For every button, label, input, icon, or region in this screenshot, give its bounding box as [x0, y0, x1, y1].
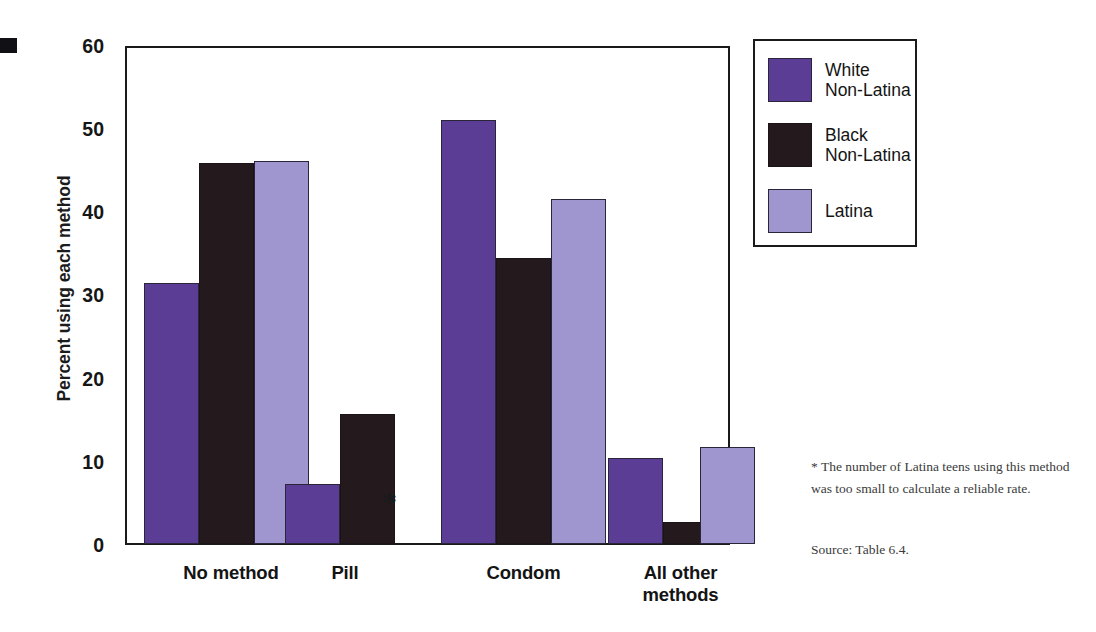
bar-no-method-black-non-latina [199, 163, 254, 544]
y-tick-label-30: 30 [48, 286, 104, 306]
bar-condom-white-non-latina [441, 120, 496, 544]
x-label-pill: Pill [285, 562, 405, 584]
x-label-condom: Condom [441, 562, 606, 584]
legend-item-latina: Latina [768, 189, 873, 233]
legend-label-latina-line1: Latina [825, 201, 873, 221]
y-tick-label-0: 0 [48, 536, 104, 556]
footnote-text: * The number of Latina teens using this … [811, 456, 1073, 500]
latina-swatch-icon [768, 189, 812, 233]
bar-all-other-latina [700, 447, 755, 544]
bar-chart-figure: Percent using each method 60 50 40 30 20… [0, 0, 1096, 632]
y-tick-label-50: 50 [48, 120, 104, 140]
legend-label-white-non-latina: White Non-Latina [825, 60, 911, 101]
legend-label-white-non-latina-line1: White [825, 60, 911, 80]
legend-label-latina: Latina [825, 201, 873, 221]
x-label-all-other-line2: methods [598, 584, 763, 606]
bar-condom-latina [551, 199, 606, 544]
black-non-latina-swatch-icon [768, 123, 812, 167]
x-label-pill-line1: Pill [285, 562, 405, 584]
pill-latina-suppressed-asterisk: * [382, 487, 397, 517]
x-label-all-other-methods: All other methods [598, 562, 763, 605]
white-non-latina-swatch-icon [768, 58, 812, 102]
x-label-condom-line1: Condom [441, 562, 606, 584]
legend-item-black-non-latina: Black Non-Latina [768, 123, 911, 167]
bar-condom-black-non-latina [496, 258, 551, 544]
x-label-all-other-line1: All other [598, 562, 763, 584]
legend-item-white-non-latina: White Non-Latina [768, 58, 911, 102]
source-text: Source: Table 6.4. [811, 540, 1073, 560]
y-tick-label-40: 40 [48, 203, 104, 223]
bar-pill-black-non-latina [340, 414, 395, 544]
legend-label-black-non-latina-line1: Black [825, 125, 911, 145]
y-tick-label-20: 20 [48, 370, 104, 390]
bar-pill-white-non-latina [285, 484, 340, 544]
y-tick-label-60: 60 [48, 37, 104, 57]
legend-label-white-non-latina-line2: Non-Latina [825, 80, 911, 100]
bar-no-method-white-non-latina [144, 283, 199, 544]
legend: White Non-Latina Black Non-Latina Latina [753, 39, 917, 247]
bar-all-other-white-non-latina [608, 458, 663, 544]
y-tick-label-10: 10 [48, 453, 104, 473]
legend-label-black-non-latina: Black Non-Latina [825, 125, 911, 166]
legend-label-black-non-latina-line2: Non-Latina [825, 145, 911, 165]
